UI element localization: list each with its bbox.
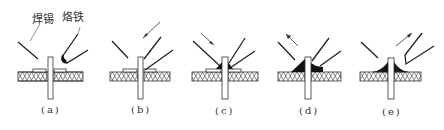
component-lead — [138, 57, 143, 99]
arrow-down-left-icon — [143, 22, 160, 38]
iron-annotation: 烙铁 — [62, 8, 84, 24]
panel-a — [18, 24, 88, 99]
arrow-up-left-icon — [286, 34, 298, 46]
soldering-iron — [312, 38, 341, 66]
panel-label-b: (b) — [131, 104, 151, 115]
soldering-iron — [62, 34, 88, 63]
panel-label-e: (e) — [382, 106, 402, 117]
soldering-iron — [144, 37, 173, 70]
solder-wire — [18, 42, 38, 59]
component-lead — [305, 57, 311, 99]
soldering-iron — [229, 38, 255, 68]
panel-label-c: (c) — [215, 105, 234, 116]
arrow-up-right-icon — [396, 33, 412, 46]
solder-wire — [112, 41, 128, 58]
soldering-iron — [405, 33, 434, 64]
panel-label-a: (a) — [41, 104, 61, 115]
solder-wire — [278, 42, 295, 60]
component-lead — [222, 57, 228, 99]
solder-annotation: 焊锡 — [32, 10, 54, 26]
panel-b — [110, 22, 173, 99]
panel-label-d: (d) — [299, 105, 319, 116]
solder-wire — [361, 42, 378, 58]
solder-wire — [193, 41, 220, 66]
panel-c — [192, 33, 258, 99]
solder-leader-line — [30, 24, 40, 41]
component-lead — [388, 58, 394, 99]
component-lead — [48, 57, 53, 99]
arrow-down-right-icon — [201, 33, 214, 45]
panel-d — [278, 34, 341, 99]
panel-e — [360, 33, 434, 99]
iron-leader-line — [78, 27, 80, 34]
